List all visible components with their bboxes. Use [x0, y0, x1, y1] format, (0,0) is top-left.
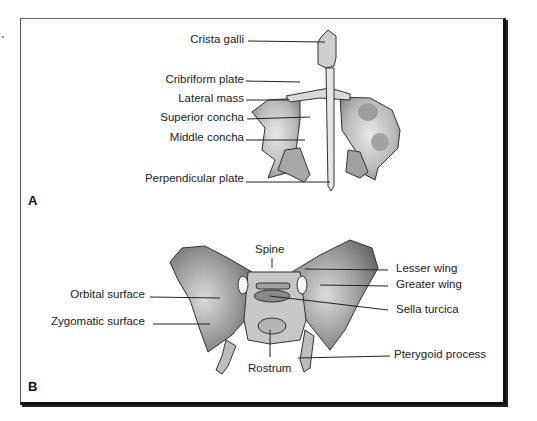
label-greater-wing: Greater wing [396, 278, 462, 290]
label-crista-galli: Crista galli [190, 33, 244, 45]
label-orbital-surface: Orbital surface [70, 288, 145, 300]
label-sella-turcica: Sella turcica [396, 303, 459, 315]
label-lateral-mass: Lateral mass [178, 92, 244, 104]
label-pterygoid-process: Pterygoid process [394, 348, 486, 360]
label-lesser-wing: Lesser wing [396, 262, 457, 274]
ethmoid-bone-drawing [252, 30, 400, 191]
label-perpendicular-plate: Perpendicular plate [145, 172, 244, 184]
label-zygomatic-surface: Zygomatic surface [51, 315, 145, 327]
label-spine: Spine [255, 243, 284, 255]
sphenoid-bone-drawing [170, 240, 378, 374]
label-superior-concha: Superior concha [160, 111, 244, 123]
label-middle-concha: Middle concha [170, 131, 244, 143]
label-rostrum: Rostrum [248, 362, 291, 374]
panel-letter-a: A [28, 193, 37, 208]
panel-letter-b: B [28, 379, 37, 394]
label-cribriform-plate: Cribriform plate [165, 73, 244, 85]
